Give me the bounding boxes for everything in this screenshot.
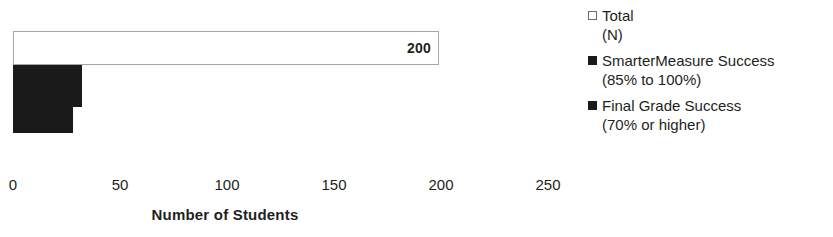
legend-sublabel-smartermeasure: (85% to 100%) xyxy=(602,70,833,89)
x-tick-150: 150 xyxy=(321,175,346,195)
x-tick-50: 50 xyxy=(112,175,129,195)
legend-swatch-filled-square-icon xyxy=(588,56,597,65)
legend-swatch-filled-square-icon xyxy=(588,101,597,110)
x-tick-100: 100 xyxy=(214,175,239,195)
x-tick-0: 0 xyxy=(9,175,17,195)
bars-layer: 200 xyxy=(13,31,558,133)
legend-item-smartermeasure: SmarterMeasure Success (85% to 100%) xyxy=(588,51,833,89)
bar-chart-figure: 200 0 50 100 150 200 250 Number of Stude… xyxy=(0,0,833,237)
legend-label-total: Total xyxy=(602,6,634,25)
legend-swatch-open-square-icon xyxy=(588,11,597,20)
legend-label-final-grade: Final Grade Success xyxy=(602,96,741,115)
x-tick-250: 250 xyxy=(535,175,560,195)
plot-area: 200 0 50 100 150 200 250 Number of Stude… xyxy=(0,0,570,237)
legend-sublabel-final-grade: (70% or higher) xyxy=(602,115,833,134)
x-axis-title: Number of Students xyxy=(0,206,450,223)
bar-total-value-label: 200 xyxy=(407,41,431,55)
bar-final-grade-success xyxy=(13,107,73,133)
legend-item-total: Total (N) xyxy=(588,6,833,44)
chart-legend: Total (N) SmarterMeasure Success (85% to… xyxy=(588,6,833,141)
legend-sublabel-total: (N) xyxy=(602,25,833,44)
bar-smartermeasure-success xyxy=(13,65,82,107)
legend-item-final-grade: Final Grade Success (70% or higher) xyxy=(588,96,833,134)
x-tick-200: 200 xyxy=(428,175,453,195)
x-axis: 0 50 100 150 200 250 xyxy=(0,175,570,197)
legend-label-smartermeasure: SmarterMeasure Success xyxy=(602,51,775,70)
bar-total-n: 200 xyxy=(13,31,439,65)
